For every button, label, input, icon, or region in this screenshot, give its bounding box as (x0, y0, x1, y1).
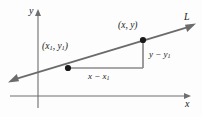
y-axis (35, 9, 41, 108)
rise-second-subscript: 1 (168, 53, 171, 59)
diagram-canvas (0, 0, 202, 117)
line-L-arrowhead-left-icon (8, 74, 19, 82)
run-second-subscript: 1 (107, 75, 110, 81)
point-marker-xy (140, 37, 146, 43)
y-axis-label: y (29, 6, 33, 16)
point-marker-x1y1 (65, 65, 71, 71)
line-label-L: L (184, 12, 190, 22)
x-axis-label: x (185, 99, 189, 109)
line-L-arrowhead-right-icon (185, 24, 196, 32)
run-label: x − x1 (88, 72, 110, 81)
paren-close: ) (65, 41, 68, 51)
y-axis-arrowhead-icon (35, 9, 41, 16)
rise-label: y − y1 (149, 50, 171, 59)
plotted-points (65, 37, 146, 71)
point-label-x1y1: (x1, y1) (42, 42, 68, 52)
point-label-xy: (x, y) (118, 21, 138, 31)
run-minus-sign: − (92, 71, 103, 81)
rise-minus-sign: − (153, 49, 164, 59)
paren-close: ) (134, 20, 137, 30)
x-axis (10, 93, 191, 99)
line-slope-diagram: y x L (x, y) (x1, y1) y − y1 x − x1 (0, 0, 202, 117)
